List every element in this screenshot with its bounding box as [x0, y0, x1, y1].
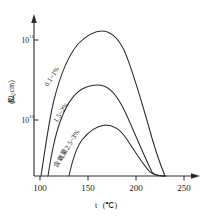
- y-tick-label-1e10-exponent: 10: [29, 114, 35, 119]
- x-tick-label-200: 200: [129, 183, 143, 193]
- x-tick-label-150: 150: [81, 183, 95, 193]
- y-axis-title-unit: (Ω·cm): [7, 80, 16, 104]
- y-axis-title: R v (Ω·cm): [7, 80, 17, 104]
- y-tick-label-1e11-exponent: 11: [29, 34, 34, 39]
- x-tick-label-250: 250: [177, 183, 191, 193]
- x-axis-title-unit: (℃): [103, 201, 118, 210]
- x-tick-label-100: 100: [33, 183, 47, 193]
- chart-svg: 10 11 10 10 100 150 200 250 t (℃) R v (Ω…: [0, 0, 206, 223]
- resistivity-vs-temperature-chart: 10 11 10 10 100 150 200 250 t (℃) R v (Ω…: [0, 0, 206, 223]
